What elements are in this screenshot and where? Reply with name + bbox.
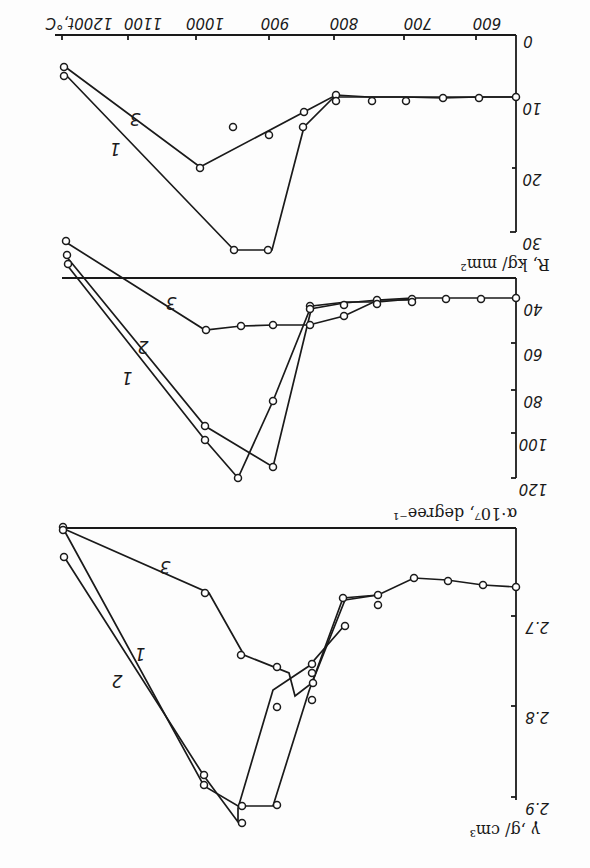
gamma-tick-2-7: 2.7: [525, 618, 549, 636]
gamma-curve-3-label: 3: [160, 557, 171, 577]
alpha-markers: [63, 238, 520, 482]
panel-alpha: 40 60 80 100 120 α·10⁷, degree⁻¹: [62, 238, 547, 524]
alpha-tick-60: 60: [523, 345, 542, 363]
r-curve-1: [64, 73, 516, 250]
r-axis-label: R, kg/ mm²: [460, 255, 549, 274]
r-tick-10: 10: [522, 99, 541, 117]
figure: 1200t,°C 1100 1000 900 800 700 600 0 10 …: [0, 0, 590, 868]
x-origin-label: 0: [523, 32, 533, 50]
alpha-curve-3-label: 3: [166, 293, 177, 313]
panel-r: 10 20 30 R, kg/ mm² 3 1: [61, 35, 550, 274]
alpha-curve-3: [64, 241, 516, 330]
gamma-curve-1: [64, 530, 378, 806]
gamma-axis-label: γ ,g/ cm³: [470, 821, 541, 840]
alpha-curve-2: [66, 256, 412, 467]
x-tick-1100: 1100: [124, 14, 162, 32]
x-tick-1000: 1000: [186, 14, 224, 32]
x-axis: 1200t,°C 1100 1000 900 800 700 600 0: [45, 14, 533, 50]
alpha-tick-80: 80: [523, 392, 542, 410]
r-tick-20: 20: [522, 170, 541, 188]
gamma-tick-2-9: 2.9: [525, 799, 549, 817]
x-tick-800: 800: [330, 14, 359, 32]
alpha-tick-40: 40: [523, 300, 542, 318]
r-markers: [61, 64, 520, 254]
alpha-axis-label: α·10⁷, degree⁻¹: [393, 504, 517, 523]
gamma-tick-2-8: 2.8: [525, 708, 549, 726]
chart-canvas: 1200t,°C 1100 1000 900 800 700 600 0 10 …: [0, 0, 590, 868]
r-tick-30: 30: [522, 234, 541, 252]
x-tick-1200: 1200t,°C: [45, 14, 112, 32]
alpha-curve-2-label: 2: [138, 337, 149, 357]
gamma-curve-1-label: 1: [135, 644, 146, 664]
gamma-curve-2-label: 2: [112, 671, 123, 691]
alpha-tick-120: 120: [519, 480, 548, 498]
panel-gamma: 2.7 2.8 2.9 γ ,g/ cm³: [60, 524, 549, 841]
alpha-tick-100: 100: [519, 435, 548, 453]
x-tick-900: 900: [261, 14, 290, 32]
x-tick-600: 600: [473, 14, 502, 32]
x-tick-700: 700: [404, 14, 433, 32]
gamma-curve-3: [62, 528, 516, 696]
r-curve-1-label: 1: [110, 139, 121, 159]
alpha-curve-1-label: 1: [122, 368, 133, 388]
r-curve-3-label: 3: [130, 109, 141, 129]
